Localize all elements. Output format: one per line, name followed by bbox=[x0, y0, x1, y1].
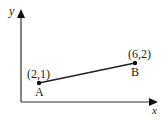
segment-ab bbox=[39, 63, 135, 83]
point-b-coord-label: (6,2) bbox=[128, 47, 151, 61]
point-a-name-label: A bbox=[35, 85, 44, 99]
y-axis-arrow-icon bbox=[17, 9, 25, 18]
x-axis-label: x bbox=[151, 104, 157, 116]
point-a-coord-label: (2,1) bbox=[27, 67, 50, 81]
y-axis-label: y bbox=[8, 4, 15, 18]
point-b-name-label: B bbox=[131, 65, 139, 79]
diagram-canvas: y x (2,1) A (6,2) B bbox=[0, 0, 168, 122]
coordinate-diagram: y x (2,1) A (6,2) B bbox=[0, 0, 168, 122]
